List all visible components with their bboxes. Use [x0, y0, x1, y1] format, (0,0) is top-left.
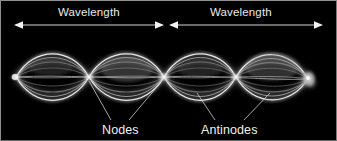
nodes-label: Nodes [102, 124, 139, 137]
wavelength-arrow-left [14, 21, 164, 28]
wavelength-arrow-right [169, 21, 323, 28]
arrowhead-right-east [314, 21, 323, 28]
antinodes-label: Antinodes [201, 124, 258, 137]
wavelength-label-left: Wavelength [58, 6, 120, 18]
nodes-leader-lines [89, 81, 162, 120]
arrowhead-right-west [169, 21, 178, 28]
arrowhead-left-east [155, 21, 164, 28]
arrowhead-left-west [14, 21, 23, 28]
wavelength-label-right: Wavelength [210, 6, 272, 18]
standing-wave-figure: Wavelength Wavelength Nodes Antinodes [0, 0, 337, 141]
antinodes-leader-lines [197, 93, 270, 120]
annotation-overlay [1, 1, 336, 140]
